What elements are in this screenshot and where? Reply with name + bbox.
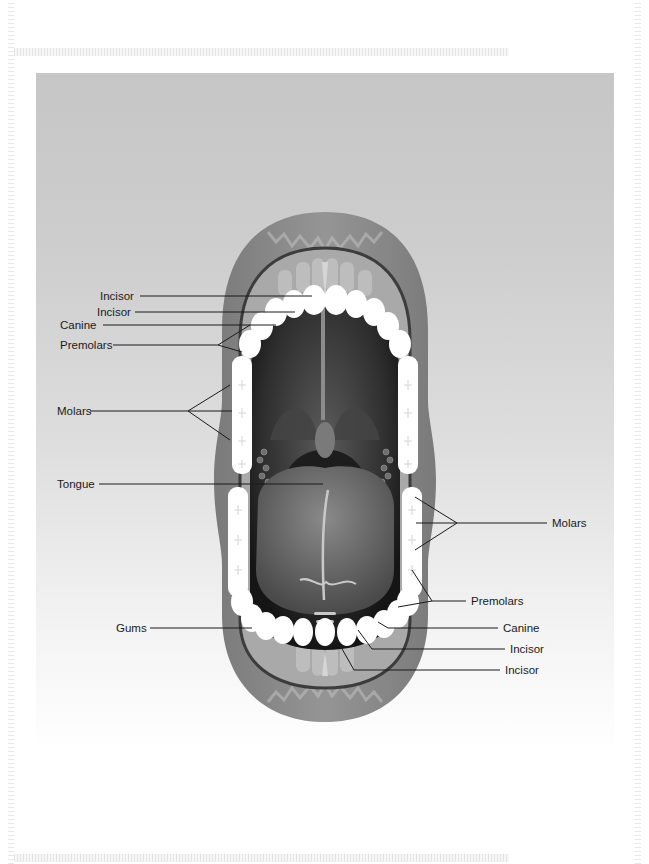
- label-incisor-lower-1: Incisor: [510, 642, 544, 656]
- label-molars-lower: Molars: [552, 516, 587, 530]
- label-incisor-lower-2: Incisor: [505, 663, 539, 677]
- label-molars-upper: Molars: [57, 404, 92, 418]
- label-premolars-upper: Premolars: [60, 338, 112, 352]
- tongue: [256, 466, 394, 623]
- label-incisor-upper-1: Incisor: [100, 289, 134, 303]
- label-premolars-lower: Premolars: [471, 594, 523, 608]
- uvula: [315, 422, 335, 458]
- label-canine-lower: Canine: [503, 621, 539, 635]
- label-gums: Gums: [116, 621, 147, 635]
- label-incisor-upper-2: Incisor: [97, 305, 131, 319]
- mouth-illustration: [0, 0, 649, 864]
- label-tongue: Tongue: [57, 477, 95, 491]
- label-canine-upper: Canine: [60, 318, 96, 332]
